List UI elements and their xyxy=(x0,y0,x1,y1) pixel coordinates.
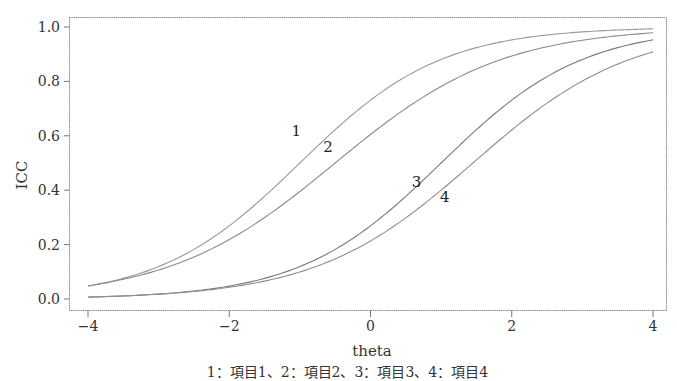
curve-label-1: 1 xyxy=(292,122,302,140)
x-tick-label: −4 xyxy=(78,318,99,334)
x-tick-label: −2 xyxy=(219,318,240,334)
y-tick-label: 0.2 xyxy=(38,237,60,253)
y-tick-label: 0.8 xyxy=(38,73,60,89)
icc-curve-item-3 xyxy=(88,40,653,297)
curve-label-4: 4 xyxy=(440,188,450,206)
y-tick-label: 0.4 xyxy=(38,182,60,198)
icc-curve-item-1 xyxy=(88,29,653,286)
icc-curve-item-2 xyxy=(88,33,653,286)
curve-label-2: 2 xyxy=(323,138,333,156)
x-axis: −4−2024 xyxy=(78,311,658,335)
x-tick-label: 4 xyxy=(649,318,658,334)
curve-label-3: 3 xyxy=(412,173,422,191)
x-axis-title: theta xyxy=(352,342,392,360)
curves xyxy=(88,29,653,297)
y-tick-label: 0.0 xyxy=(38,291,60,307)
y-tick-label: 1.0 xyxy=(38,19,60,35)
y-axis: 0.00.20.40.60.81.0 xyxy=(38,19,70,307)
figure-caption: 1：項目1、2：項目2、3：項目3、4：項目4 xyxy=(0,361,677,381)
x-tick-label: 0 xyxy=(366,318,375,334)
y-axis-title: ICC xyxy=(13,161,31,190)
x-tick-label: 2 xyxy=(507,318,516,334)
y-tick-label: 0.6 xyxy=(38,128,60,144)
